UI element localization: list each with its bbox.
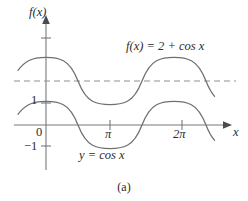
x-tick-label-pi: π xyxy=(105,128,111,141)
x-axis-label: x xyxy=(233,126,239,139)
y-tick-label-one: 1 xyxy=(31,94,37,107)
x-axis-arrowhead xyxy=(223,121,232,129)
lower-curve-equation-label: y = cos x xyxy=(79,149,125,162)
upper-curve-equation-label: f(x) = 2 + cos x xyxy=(126,40,204,53)
figure-container: f(x) x f(x) = 2 + cos x y = cos x 1 0 −1… xyxy=(0,0,248,201)
x-axis-group xyxy=(14,120,232,130)
y-axis-group xyxy=(41,15,51,170)
x-tick-label-two-pi: 2π xyxy=(173,128,186,141)
y-axis-label: f(x) xyxy=(29,6,46,19)
y-tick-label-zero: 0 xyxy=(36,126,42,139)
y-tick-label-negative-one: −1 xyxy=(24,140,37,153)
figure-caption: (a) xyxy=(0,181,248,193)
